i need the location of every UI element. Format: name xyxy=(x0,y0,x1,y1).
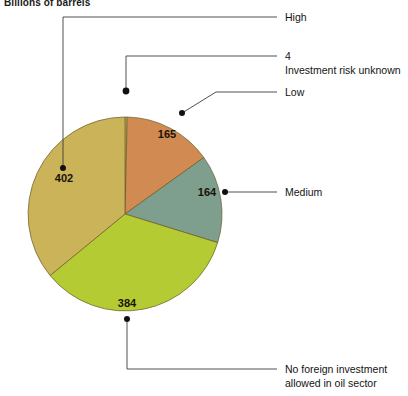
leader-dot-high xyxy=(60,165,66,171)
callout-value-investment-risk-unknown: 4 xyxy=(285,50,291,63)
leader-line-low xyxy=(182,92,277,113)
leader-dot-investment-risk-unknown xyxy=(123,88,130,95)
slice-value-medium: 164 xyxy=(191,186,223,198)
callout-label-high: High xyxy=(285,11,307,24)
callout-label-no-foreign-investment-line1: No foreign investment xyxy=(285,363,387,376)
leader-dot-no-foreign-investment xyxy=(124,316,130,322)
leader-line-no-foreign-investment xyxy=(127,319,277,369)
callout-label-medium: Medium xyxy=(285,186,322,199)
slice-value-high: 402 xyxy=(48,172,80,184)
slice-value-no-foreign-investment: 384 xyxy=(111,297,143,309)
pie-chart-graphic xyxy=(0,0,408,396)
callout-label-no-foreign-investment-line2: allowed in oil sector xyxy=(285,377,377,390)
leader-line-investment-risk-unknown xyxy=(126,56,277,91)
callout-label-investment-risk-unknown: Investment risk unknown xyxy=(285,64,401,77)
chart-canvas: Billions of barrels High 4 Investment ri… xyxy=(0,0,408,396)
leader-dot-low xyxy=(179,110,185,116)
slice-value-low: 165 xyxy=(151,128,183,140)
callout-label-low: Low xyxy=(285,86,304,99)
